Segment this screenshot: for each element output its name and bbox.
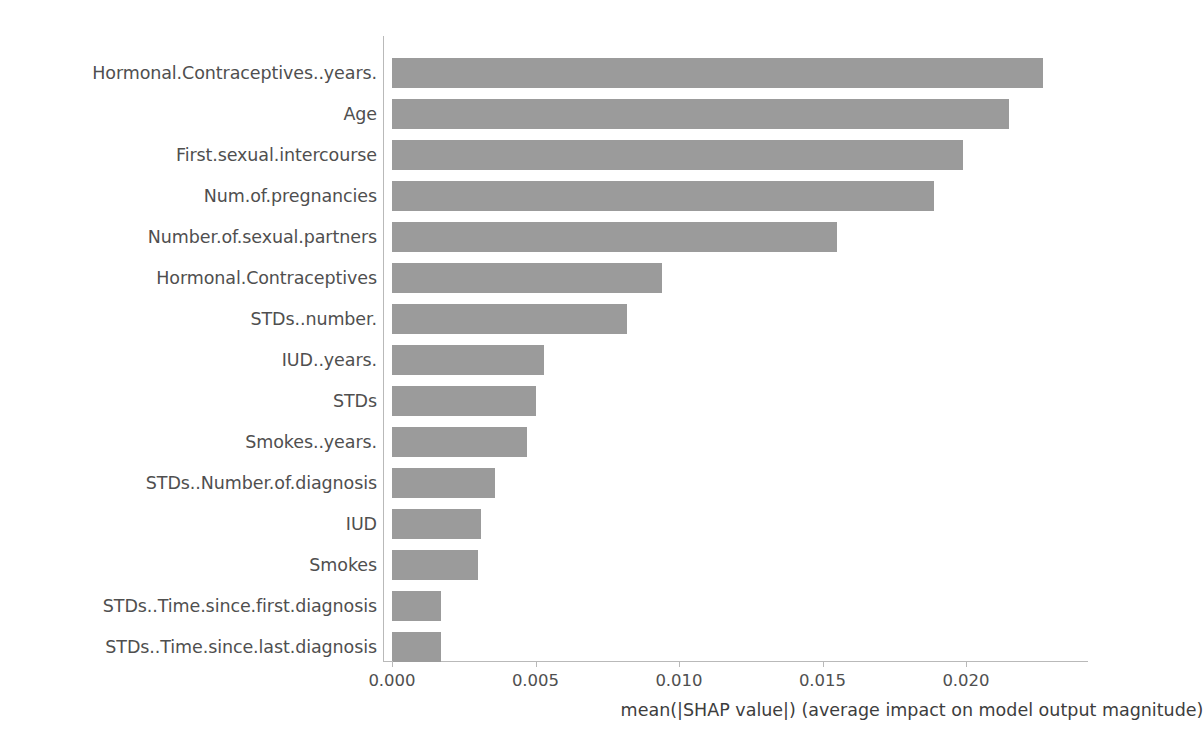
bar-row: Smokes..years. — [0, 422, 1120, 463]
x-axis-title: mean(|SHAP value|) (average impact on mo… — [0, 700, 1120, 720]
x-axis-tick-label: 0.010 — [655, 671, 702, 690]
bar — [392, 222, 837, 252]
bar-row: Smokes — [0, 545, 1120, 586]
bar-category-label: IUD..years. — [282, 350, 377, 370]
bar-category-label: Age — [343, 104, 377, 124]
bar — [392, 386, 536, 416]
bar-category-label: Num.of.pregnancies — [204, 186, 377, 206]
bar — [392, 263, 662, 293]
bar — [392, 591, 441, 621]
x-axis-tick-mark — [823, 661, 824, 667]
x-axis-title-text: mean(|SHAP value|) (average impact on mo… — [621, 700, 1203, 720]
bar-row: STDs..number. — [0, 299, 1120, 340]
bar-category-label: STDs..Time.since.first.diagnosis — [103, 596, 377, 616]
bar-row: STDs..Number.of.diagnosis — [0, 463, 1120, 504]
bar-row: IUD — [0, 504, 1120, 545]
bar-row: STDs — [0, 381, 1120, 422]
bar — [392, 632, 441, 662]
bar — [392, 345, 544, 375]
x-axis-tick-mark — [392, 661, 393, 667]
bar — [392, 509, 481, 539]
x-axis-tick-mark — [536, 661, 537, 667]
bar — [392, 427, 527, 457]
bar — [392, 550, 478, 580]
bar — [392, 58, 1043, 88]
bar-category-label: Number.of.sexual.partners — [148, 227, 377, 247]
x-axis-tick-label: 0.015 — [799, 671, 846, 690]
x-axis-tick-label: 0.020 — [942, 671, 989, 690]
bar-row: Age — [0, 94, 1120, 135]
bar-row: Num.of.pregnancies — [0, 176, 1120, 217]
bar-category-label: First.sexual.intercourse — [176, 145, 377, 165]
bar-category-label: Smokes — [309, 555, 377, 575]
bar-row: STDs..Time.since.last.diagnosis — [0, 627, 1120, 668]
bar-category-label: IUD — [346, 514, 377, 534]
x-axis-tick-mark — [966, 661, 967, 667]
bar — [392, 140, 963, 170]
bar-category-label: Hormonal.Contraceptives — [156, 268, 377, 288]
bar-row: First.sexual.intercourse — [0, 135, 1120, 176]
bar-row: Number.of.sexual.partners — [0, 217, 1120, 258]
bar-row: Hormonal.Contraceptives — [0, 258, 1120, 299]
bar-category-label: Smokes..years. — [245, 432, 377, 452]
bar-row: IUD..years. — [0, 340, 1120, 381]
x-axis-tick-label: 0.000 — [368, 671, 415, 690]
bar-row: Hormonal.Contraceptives..years. — [0, 53, 1120, 94]
bar-category-label: STDs..Number.of.diagnosis — [146, 473, 377, 493]
x-axis-tick-label: 0.005 — [512, 671, 559, 690]
bar — [392, 181, 934, 211]
bar — [392, 304, 627, 334]
bar-category-label: STDs — [333, 391, 377, 411]
x-axis-tick-mark — [679, 661, 680, 667]
bar — [392, 468, 495, 498]
bar-category-label: STDs..number. — [251, 309, 377, 329]
bar — [392, 99, 1009, 129]
bar-category-label: STDs..Time.since.last.diagnosis — [105, 637, 377, 657]
bar-row: STDs..Time.since.first.diagnosis — [0, 586, 1120, 627]
bar-category-label: Hormonal.Contraceptives..years. — [92, 63, 377, 83]
